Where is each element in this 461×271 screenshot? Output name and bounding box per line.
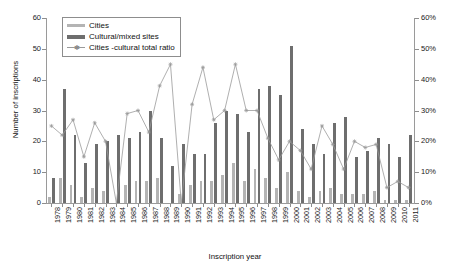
ratio-marker bbox=[82, 155, 86, 159]
x-tick-label: 2009 bbox=[390, 207, 398, 223]
ratio-marker bbox=[396, 179, 400, 183]
y-tick-label-left: 0 bbox=[37, 199, 41, 207]
x-tick-label: 1994 bbox=[228, 207, 236, 223]
ratio-marker bbox=[104, 139, 108, 143]
x-tick-label: 1995 bbox=[238, 207, 246, 223]
x-tick bbox=[333, 204, 334, 207]
x-tick-label: 2004 bbox=[336, 207, 344, 223]
ratio-marker bbox=[125, 112, 129, 116]
ratio-marker bbox=[93, 121, 97, 125]
x-tick-label: 2011 bbox=[412, 207, 420, 222]
x-tick-label: 1990 bbox=[184, 207, 192, 223]
ratio-line bbox=[51, 64, 408, 203]
x-tick-label: 1982 bbox=[98, 207, 106, 223]
x-tick bbox=[160, 204, 161, 207]
x-tick-label: 1992 bbox=[206, 207, 214, 223]
x-tick-label: 1991 bbox=[195, 207, 203, 223]
x-tick-label: 1989 bbox=[173, 207, 181, 223]
x-tick bbox=[387, 204, 388, 207]
y-tick-right bbox=[415, 18, 419, 19]
x-tick-label: 1985 bbox=[130, 207, 138, 223]
y-tick-label-left: 40 bbox=[33, 76, 41, 84]
y-tick-label-left: 60 bbox=[33, 14, 41, 22]
x-axis-line bbox=[46, 203, 415, 204]
x-tick bbox=[138, 204, 139, 207]
ratio-marker bbox=[309, 167, 313, 171]
ratio-marker bbox=[342, 167, 346, 171]
x-tick-label: 1999 bbox=[282, 207, 290, 223]
x-tick bbox=[279, 204, 280, 207]
ratio-marker bbox=[158, 84, 162, 88]
line-swatch-marker-icon: ✱ bbox=[66, 42, 86, 53]
ratio-marker bbox=[352, 139, 356, 143]
x-tick-label: 2006 bbox=[357, 207, 365, 223]
x-tick-label: 2002 bbox=[314, 207, 322, 223]
chart-legend: Cities Cultural/mixed sites ✱ Cities -cu… bbox=[62, 17, 181, 57]
ratio-marker bbox=[212, 118, 216, 122]
ratio-marker bbox=[244, 109, 248, 113]
y-tick-right bbox=[415, 49, 419, 50]
ratio-marker bbox=[331, 142, 335, 146]
ratio-marker bbox=[363, 146, 367, 150]
ratio-marker bbox=[60, 133, 64, 137]
x-tick bbox=[106, 204, 107, 207]
y-tick-right bbox=[415, 203, 419, 204]
legend-label-cultural: Cultural/mixed sites bbox=[89, 32, 159, 41]
x-tick bbox=[409, 204, 410, 207]
x-tick bbox=[344, 204, 345, 207]
y-tick-right bbox=[415, 80, 419, 81]
legend-label-ratio: Cities -cultural total ratio bbox=[89, 43, 175, 52]
y-tick-label-right: 30% bbox=[421, 107, 436, 115]
x-tick bbox=[192, 204, 193, 207]
x-tick bbox=[84, 204, 85, 207]
legend-item-ratio: ✱ Cities -cultural total ratio bbox=[66, 42, 175, 53]
ratio-marker bbox=[298, 149, 302, 153]
x-tick-label: 2008 bbox=[379, 207, 387, 223]
x-tick-label: 1996 bbox=[249, 207, 257, 223]
x-tick bbox=[203, 204, 204, 207]
ratio-marker bbox=[407, 186, 411, 190]
y-tick-right bbox=[415, 111, 419, 112]
x-tick-label: 1997 bbox=[260, 207, 268, 223]
x-tick bbox=[257, 204, 258, 207]
x-tick-label: 1987 bbox=[152, 207, 160, 223]
legend-label-cities: Cities bbox=[89, 21, 109, 30]
legend-item-cities: Cities bbox=[66, 20, 175, 31]
y-tick-label-right: 0% bbox=[421, 199, 432, 207]
x-tick-label: 2010 bbox=[401, 207, 409, 223]
x-tick-label: 2007 bbox=[368, 207, 376, 223]
x-tick bbox=[73, 204, 74, 207]
x-tick-label: 2003 bbox=[325, 207, 333, 223]
y-tick-label-left: 20 bbox=[33, 137, 41, 145]
y-tick-label-right: 50% bbox=[421, 45, 436, 53]
x-tick-label: 1980 bbox=[76, 207, 84, 223]
x-tick-label: 1979 bbox=[65, 207, 73, 223]
x-tick-label: 2005 bbox=[347, 207, 355, 223]
ratio-marker bbox=[190, 102, 194, 106]
y-tick-label-right: 20% bbox=[421, 137, 436, 145]
x-tick bbox=[268, 204, 269, 207]
x-tick bbox=[149, 204, 150, 207]
x-tick bbox=[95, 204, 96, 207]
x-axis-title: Inscription year bbox=[180, 252, 290, 261]
bar-swatch-light-icon bbox=[66, 20, 86, 31]
x-tick-label: 1986 bbox=[141, 207, 149, 223]
bar-swatch-dark-icon bbox=[66, 31, 86, 42]
chart-container: Number of inscriptions Percentage of cit… bbox=[0, 0, 461, 271]
x-tick-label: 1983 bbox=[109, 207, 117, 223]
x-tick-label: 1981 bbox=[87, 207, 95, 223]
y-tick-right bbox=[415, 172, 419, 173]
ratio-marker bbox=[168, 62, 172, 66]
x-tick-label: 1984 bbox=[119, 207, 127, 223]
ratio-marker bbox=[320, 124, 324, 128]
x-tick bbox=[376, 204, 377, 207]
ratio-marker bbox=[255, 109, 259, 113]
x-tick-label: 1988 bbox=[163, 207, 171, 223]
ratio-marker bbox=[136, 109, 140, 113]
x-tick-label: 1993 bbox=[217, 207, 225, 223]
ratio-marker bbox=[233, 62, 237, 66]
ratio-marker bbox=[266, 136, 270, 140]
ratio-marker bbox=[385, 186, 389, 190]
ratio-marker bbox=[201, 65, 205, 69]
ratio-marker bbox=[277, 158, 281, 162]
